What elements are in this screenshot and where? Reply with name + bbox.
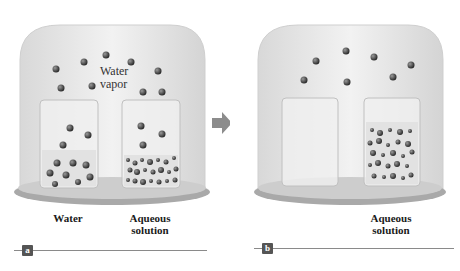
label-line2: solution bbox=[365, 224, 417, 236]
badge-a: a bbox=[22, 245, 33, 256]
divider-a bbox=[14, 250, 207, 251]
badge-b: b bbox=[262, 243, 273, 254]
label-water: Water bbox=[48, 212, 88, 224]
label-line1: Aqueous bbox=[125, 212, 175, 224]
bell-jar-diagram-a bbox=[0, 0, 230, 271]
label-aqueous-solution-a: Aqueous solution bbox=[125, 212, 175, 236]
vapor-label-line2: vapor bbox=[100, 78, 128, 91]
panel-b: Aqueous solution b bbox=[230, 0, 460, 271]
label-line2: solution bbox=[125, 224, 175, 236]
divider-b bbox=[254, 248, 454, 249]
right-arrow-icon bbox=[212, 112, 230, 134]
vapor-label: Water vapor bbox=[100, 65, 128, 91]
panel-a: Water vapor Water Aqueous solution a bbox=[0, 0, 230, 271]
label-line1: Aqueous bbox=[365, 212, 417, 224]
beaker-empty bbox=[282, 98, 338, 186]
bell-jar-diagram-b bbox=[230, 0, 460, 271]
label-aqueous-solution-b: Aqueous solution bbox=[365, 212, 417, 236]
